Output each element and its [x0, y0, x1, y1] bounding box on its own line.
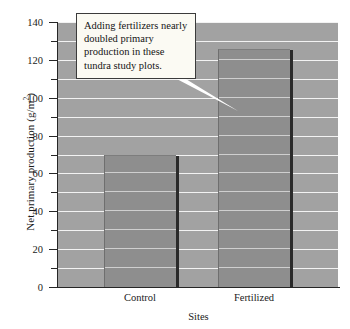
- y-tick-label: 120: [3, 54, 43, 65]
- y-tick-label: 40: [3, 206, 43, 217]
- bar-gridline: [219, 229, 290, 230]
- y-tick-label: 140: [3, 17, 43, 28]
- bar-chart-figure: Net primary production (g/m2) 0204060801…: [0, 0, 350, 329]
- bar-gridline: [105, 267, 176, 268]
- bar-gridline: [219, 59, 290, 60]
- bar-gridline: [219, 172, 290, 173]
- bar-gridline: [105, 229, 176, 230]
- bar-gridline: [219, 135, 290, 136]
- x-axis-title: Sites: [57, 311, 340, 322]
- bar-gridline: [219, 210, 290, 211]
- x-tick-label-control: Control: [90, 292, 190, 303]
- bar-gridline: [219, 154, 290, 155]
- y-tick-mark: [49, 249, 57, 250]
- bar-gridline: [105, 172, 176, 173]
- gridline: [57, 98, 338, 99]
- bar-gridline: [219, 97, 290, 98]
- x-axis-line: [57, 287, 340, 288]
- y-tick-mark: [49, 98, 57, 99]
- x-tick-label-fertilized: Fertilized: [204, 292, 304, 303]
- y-tick-label: 0: [3, 282, 43, 293]
- gridline: [57, 211, 338, 212]
- y-tick-label: 60: [3, 168, 43, 179]
- bar-gridline: [219, 116, 290, 117]
- gridline: [57, 230, 338, 231]
- annotation-callout: Adding fertilizers nearly doubled primar…: [76, 13, 196, 79]
- gridline: [57, 117, 338, 118]
- bar-gridline: [105, 191, 176, 192]
- y-tick-mark: [49, 60, 57, 61]
- gridline: [57, 136, 338, 137]
- y-tick-label: 100: [3, 92, 43, 103]
- gridline: [57, 173, 338, 174]
- y-tick-mark: [49, 287, 57, 288]
- y-tick-mark: [49, 136, 57, 137]
- bar-gridline: [219, 267, 290, 268]
- gridline: [57, 268, 338, 269]
- bar-control: [104, 155, 176, 288]
- y-tick-mark: [49, 211, 57, 212]
- bar-gridline: [219, 248, 290, 249]
- bar-gridline: [219, 78, 290, 79]
- y-tick-mark: [49, 22, 57, 23]
- y-tick-label: 20: [3, 244, 43, 255]
- gridline: [57, 79, 338, 80]
- y-axis-line: [57, 22, 58, 288]
- gridline: [57, 192, 338, 193]
- bar-gridline: [219, 191, 290, 192]
- bar-gridline: [105, 248, 176, 249]
- gridline: [57, 155, 338, 156]
- y-tick-mark: [49, 173, 57, 174]
- gridline: [57, 249, 338, 250]
- bar-fertilized: [218, 49, 290, 288]
- y-axis-ticks: 020406080100120140: [0, 0, 57, 329]
- y-tick-label: 80: [3, 130, 43, 141]
- bar-gridline: [105, 210, 176, 211]
